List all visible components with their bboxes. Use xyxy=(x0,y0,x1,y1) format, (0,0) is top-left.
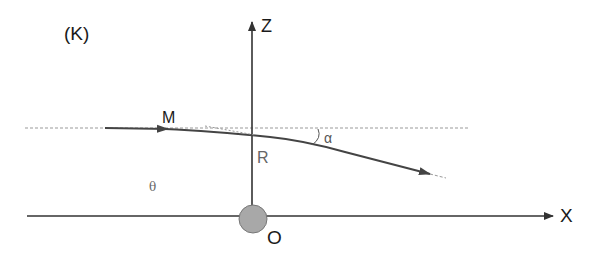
deflected-trajectory xyxy=(165,129,430,174)
x-axis-label: X xyxy=(560,206,573,225)
origin-mass xyxy=(239,205,267,233)
point-r-label: R xyxy=(257,150,269,166)
z-axis-label: Z xyxy=(261,17,272,35)
origin-label: O xyxy=(267,228,282,247)
theta-label: θ xyxy=(149,181,156,193)
alpha-angle-arc xyxy=(312,129,319,145)
outgoing-asymptote-dashed-line xyxy=(430,174,446,178)
alpha-angle-label: α xyxy=(324,131,332,145)
incoming-trajectory xyxy=(105,128,168,129)
point-m-label: M xyxy=(162,110,175,126)
frame-label: (K) xyxy=(64,24,89,43)
